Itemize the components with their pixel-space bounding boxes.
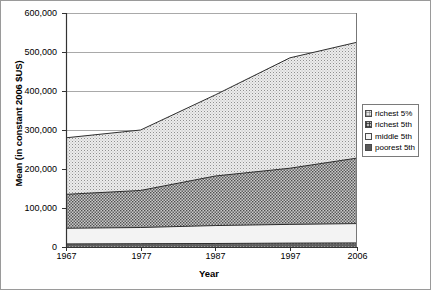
y-axis-ticks bbox=[62, 14, 66, 248]
x-tick-label: 1987 bbox=[191, 251, 241, 261]
stacked-area-chart: Mean (in constant 2006 $US) 600,000 500,… bbox=[0, 0, 432, 291]
x-tick-label: 1977 bbox=[117, 251, 167, 261]
legend-swatch-icon bbox=[365, 110, 372, 117]
legend-item-label: poorest 5th bbox=[375, 143, 415, 152]
x-tick-label: 1997 bbox=[266, 251, 316, 261]
x-tick-label: 1967 bbox=[42, 251, 92, 261]
legend-swatch-icon bbox=[365, 121, 372, 128]
chart-legend: richest 5% richest 5th middle 5th poores… bbox=[362, 104, 419, 157]
legend-item-richest-5th[interactable]: richest 5th bbox=[365, 119, 415, 130]
legend-item-label: middle 5th bbox=[375, 132, 412, 141]
legend-item-label: richest 5th bbox=[375, 120, 412, 129]
legend-item-middle-5th[interactable]: middle 5th bbox=[365, 131, 415, 142]
legend-item-poorest-5th[interactable]: poorest 5th bbox=[365, 142, 415, 153]
legend-swatch-icon bbox=[365, 144, 372, 151]
x-axis-title: Year bbox=[60, 268, 358, 279]
legend-item-label: richest 5% bbox=[375, 109, 412, 118]
x-tick-label: 2006 bbox=[333, 251, 383, 261]
legend-swatch-icon bbox=[365, 133, 372, 140]
legend-item-richest-5pct[interactable]: richest 5% bbox=[365, 108, 415, 119]
